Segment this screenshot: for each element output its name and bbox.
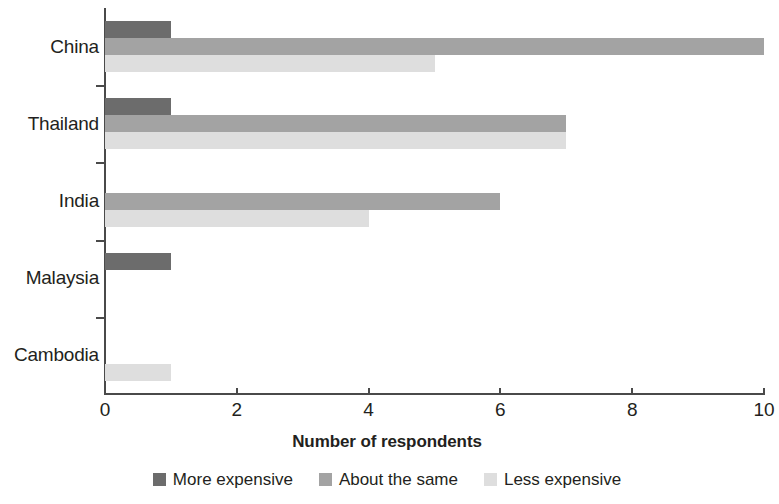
legend-item-less-expensive[interactable]: Less expensive — [484, 471, 621, 488]
bar-china-about-the-same — [105, 38, 764, 55]
bar-thailand-more-expensive — [105, 98, 171, 115]
bar-india-about-the-same — [105, 193, 500, 210]
x-axis-tick-label: 8 — [612, 400, 652, 419]
category-label-thailand: Thailand — [3, 114, 99, 133]
legend-item-more-expensive[interactable]: More expensive — [153, 471, 293, 488]
category-label-cambodia: Cambodia — [3, 345, 99, 364]
legend-label: More expensive — [173, 471, 293, 488]
x-axis-tick-label: 10 — [744, 400, 779, 419]
bar-india-less-expensive — [105, 210, 369, 227]
bar-malaysia-more-expensive — [105, 253, 171, 270]
x-axis-tick-label: 6 — [480, 400, 520, 419]
category-label-malaysia: Malaysia — [3, 268, 99, 287]
x-axis-tick-label: 0 — [85, 400, 125, 419]
bar-thailand-about-the-same — [105, 115, 566, 132]
plot-area — [105, 8, 764, 394]
category-label-india: India — [3, 191, 99, 210]
bar-china-less-expensive — [105, 55, 435, 72]
legend-label: Less expensive — [504, 471, 621, 488]
legend-item-about-the-same[interactable]: About the same — [319, 471, 458, 488]
legend-swatch-icon — [319, 473, 332, 486]
chart-legend: More expensiveAbout the sameLess expensi… — [0, 471, 774, 488]
x-axis-tick-label: 4 — [349, 400, 389, 419]
y-axis-category-labels: ChinaThailandIndiaMalaysiaCambodia — [0, 0, 99, 504]
bar-thailand-less-expensive — [105, 132, 566, 149]
x-axis-title: Number of respondents — [0, 432, 774, 452]
category-label-china: China — [3, 37, 99, 56]
bar-china-more-expensive — [105, 21, 171, 38]
legend-swatch-icon — [484, 473, 497, 486]
bar-cambodia-less-expensive — [105, 364, 171, 381]
legend-label: About the same — [339, 471, 458, 488]
x-axis-tick-label: 2 — [217, 400, 257, 419]
legend-swatch-icon — [153, 473, 166, 486]
